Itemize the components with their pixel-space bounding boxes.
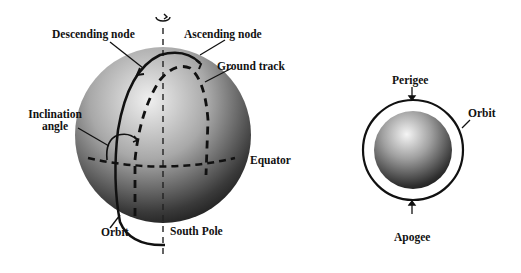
- perigee-arrow-icon: [409, 87, 415, 100]
- label-inclination-angle: Inclination angle: [25, 108, 85, 132]
- label-orbit-left: Orbit: [101, 226, 128, 238]
- rotation-arrow-icon: [156, 14, 170, 21]
- label-apogee: Apogee: [394, 231, 430, 243]
- label-south-pole: South Pole: [170, 225, 223, 237]
- label-descending-node: Descending node: [52, 28, 135, 40]
- apogee-arrow-icon: [409, 201, 415, 214]
- label-inclination-line1: Inclination: [25, 108, 85, 120]
- label-ascending-node: Ascending node: [184, 28, 262, 40]
- label-ground-track: Ground track: [217, 60, 285, 72]
- label-inclination-line2: angle: [25, 120, 85, 132]
- label-equator: Equator: [250, 154, 291, 166]
- label-perigee: Perigee: [392, 74, 428, 86]
- earth-sphere-right: [374, 111, 452, 189]
- orbit-diagram: [0, 0, 521, 273]
- label-orbit-right: Orbit: [468, 107, 495, 119]
